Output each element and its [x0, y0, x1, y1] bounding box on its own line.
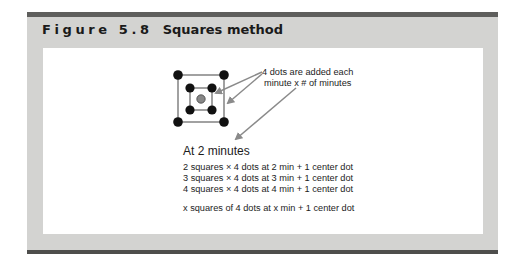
formula-line: 2 squares × 4 dots at 2 min + 1 center d…	[183, 162, 353, 173]
squares-diagram	[0, 0, 530, 268]
formula-line: 4 squares × 4 dots at 4 min + 1 center d…	[183, 184, 353, 195]
general-formula: x squares of 4 dots at x min + 1 center …	[183, 203, 354, 213]
annotation-text: 4 dots are added each minute x # of minu…	[262, 67, 353, 89]
center-dot	[197, 95, 205, 103]
annotation-line-2: minute x # of minutes	[262, 78, 353, 89]
at-2-minutes-heading: At 2 minutes	[183, 144, 250, 158]
formula-line: 3 squares × 4 dots at 3 min + 1 center d…	[183, 173, 353, 184]
annotation-line-1: 4 dots are added each	[262, 67, 353, 78]
formula-lines: 2 squares × 4 dots at 2 min + 1 center d…	[183, 162, 353, 195]
